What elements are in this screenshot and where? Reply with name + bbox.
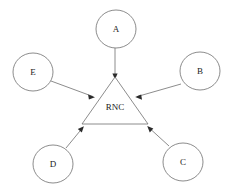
edge-c-to-rnc-arrowhead: [147, 126, 153, 132]
node-d-label: D: [50, 159, 57, 169]
edge-e-to-rnc-line: [51, 81, 93, 97]
edge-d-to-rnc: [66, 126, 84, 148]
edge-b-to-rnc: [135, 84, 181, 100]
hub-node-rnc[interactable]: RNC: [82, 77, 148, 124]
node-d[interactable]: D: [33, 145, 73, 183]
edge-c-to-rnc: [147, 126, 169, 146]
rnc-triangle-shape: [82, 77, 148, 124]
network-diagram-canvas: RNC A B C D: [0, 0, 230, 186]
node-a-label: A: [113, 24, 120, 34]
edge-b-to-rnc-line: [137, 84, 181, 97]
edge-d-to-rnc-arrowhead: [78, 126, 84, 132]
node-c[interactable]: C: [163, 143, 203, 181]
node-b[interactable]: B: [180, 52, 220, 90]
diagram-root: RNC A B C D: [0, 0, 230, 186]
edge-b-to-rnc-arrowhead: [135, 95, 142, 100]
node-b-label: B: [197, 66, 203, 76]
node-a[interactable]: A: [96, 10, 136, 48]
edge-a-to-rnc: [112, 48, 117, 80]
edge-e-to-rnc: [51, 81, 95, 100]
node-c-label: C: [180, 157, 186, 167]
node-e[interactable]: E: [13, 53, 53, 91]
node-e-label: E: [30, 67, 36, 77]
rnc-label: RNC: [106, 102, 125, 112]
edge-e-to-rnc-arrowhead: [88, 95, 95, 100]
